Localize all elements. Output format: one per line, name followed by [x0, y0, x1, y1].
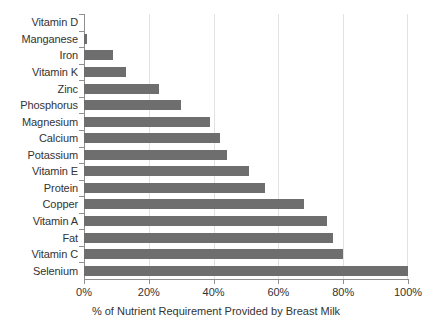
x-axis-tick-mark — [149, 279, 150, 284]
y-axis-tick-label: Calcium — [0, 130, 78, 147]
y-axis-tick-label: Magnesium — [0, 113, 78, 130]
y-axis-tick-label: Zinc — [0, 80, 78, 97]
y-axis-tick-label: Selenium — [0, 262, 78, 279]
y-axis-tick-label: Manganese — [0, 31, 78, 48]
x-axis-tick-label: 20% — [138, 286, 160, 298]
y-axis-tick-label: Protein — [0, 180, 78, 197]
bar — [84, 133, 220, 143]
y-axis-tick-label: Vitamin K — [0, 64, 78, 81]
y-axis-tick-label: Vitamin C — [0, 246, 78, 263]
bar-chart-figure: Vitamin D Manganese Iron Vitamin K Zinc … — [0, 0, 432, 329]
bar-row — [84, 180, 408, 197]
bar — [84, 266, 408, 276]
x-axis-title: % of Nutrient Requirement Provided by Br… — [0, 305, 432, 317]
bar-row — [84, 229, 408, 246]
y-axis-tick-label: Phosphorus — [0, 97, 78, 114]
y-axis-tick-label: Vitamin E — [0, 163, 78, 180]
x-axis-tick-mark — [343, 279, 344, 284]
bar — [84, 166, 249, 176]
bar — [84, 34, 87, 44]
x-axis-tick-mark — [408, 279, 409, 284]
bar-row — [84, 97, 408, 114]
bar — [84, 100, 181, 110]
bar — [84, 67, 126, 77]
bar — [84, 50, 113, 60]
y-axis-tick-label: Copper — [0, 196, 78, 213]
bar-row — [84, 163, 408, 180]
bar — [84, 233, 333, 243]
bar-row — [84, 196, 408, 213]
y-axis-category-labels: Vitamin D Manganese Iron Vitamin K Zinc … — [0, 14, 78, 279]
x-axis-tick-label: 40% — [203, 286, 225, 298]
y-axis-tick-label: Potassium — [0, 147, 78, 164]
bar — [84, 84, 159, 94]
bar-row — [84, 31, 408, 48]
bar — [84, 150, 227, 160]
y-axis-tick-label: Iron — [0, 47, 78, 64]
bar — [84, 117, 210, 127]
x-axis-tick-label: 0% — [76, 286, 92, 298]
y-axis-tick-label: Fat — [0, 229, 78, 246]
x-axis-tick-mark — [84, 279, 85, 284]
bar-row — [84, 147, 408, 164]
y-axis-tick-label: Vitamin A — [0, 213, 78, 230]
bar — [84, 249, 343, 259]
bar-series — [84, 14, 408, 279]
bar — [84, 183, 265, 193]
x-axis-tick-mark — [214, 279, 215, 284]
bar-row — [84, 213, 408, 230]
bar-row — [84, 262, 408, 279]
bar-row — [84, 64, 408, 81]
x-axis-tick-label: 100% — [394, 286, 422, 298]
x-axis-tick-mark — [278, 279, 279, 284]
bar-row — [84, 14, 408, 31]
bar-row — [84, 80, 408, 97]
plot-area — [84, 14, 408, 279]
x-axis-line — [84, 279, 409, 280]
y-axis-tick-label: Vitamin D — [0, 14, 78, 31]
bar-row — [84, 246, 408, 263]
bar-row — [84, 130, 408, 147]
bar-row — [84, 113, 408, 130]
bar — [84, 199, 304, 209]
x-axis-tick-label: 60% — [267, 286, 289, 298]
bar — [84, 216, 327, 226]
x-axis-tick-label: 80% — [332, 286, 354, 298]
bar-row — [84, 47, 408, 64]
